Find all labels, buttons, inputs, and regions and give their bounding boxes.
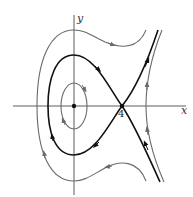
x-axis-label: x (181, 104, 188, 117)
separatrix-loop (48, 55, 122, 155)
outer-orbit-left (37, 30, 146, 181)
y-axis-label: y (76, 12, 84, 25)
center-point (72, 104, 76, 108)
saddle-label: 4 (118, 108, 124, 119)
separatrix-incoming (122, 106, 160, 182)
separatrix-outgoing (122, 30, 158, 106)
phase-portrait: x y 4 (0, 0, 193, 197)
